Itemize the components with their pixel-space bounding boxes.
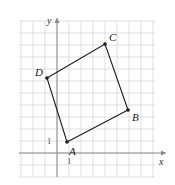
x-axis-label: x xyxy=(159,157,163,167)
geometry-figure: y x 1 1 A B C D xyxy=(0,0,175,185)
y-axis-tick-label: 1 xyxy=(47,137,51,146)
vertex-label-c: C xyxy=(109,32,116,43)
vertex-label-d: D xyxy=(35,67,43,78)
x-axis-tick-label: 1 xyxy=(67,157,71,166)
vertex-label-a: A xyxy=(69,146,76,157)
y-axis-label: y xyxy=(47,16,51,26)
figure-canvas xyxy=(0,0,175,185)
vertex-label-b: B xyxy=(132,112,139,123)
grid-lines xyxy=(19,21,155,177)
coordinate-axes xyxy=(19,18,166,177)
